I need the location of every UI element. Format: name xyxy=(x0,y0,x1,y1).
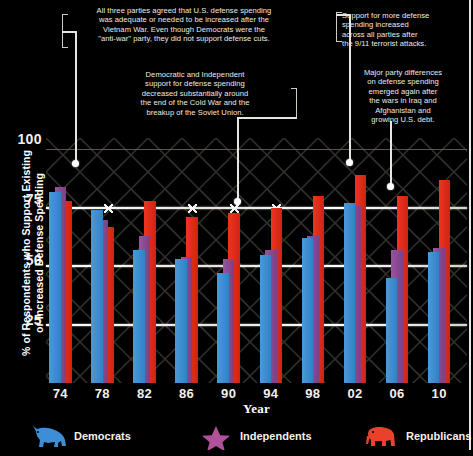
annotation-2002-line1: Support for more defense xyxy=(342,11,470,20)
bar-democrats-74 xyxy=(49,192,61,383)
annotation-2002: Support for more defense spending increa… xyxy=(342,11,470,49)
x-tick-06: 06 xyxy=(377,386,417,401)
x-tick-10: 10 xyxy=(419,386,459,401)
bar-democrats-90 xyxy=(217,273,229,383)
x-axis-title: Year xyxy=(46,401,467,417)
bar-group-82 xyxy=(133,138,156,383)
bar-group-10 xyxy=(428,138,451,383)
donkey-icon xyxy=(30,424,70,450)
annotation-2002-bracket xyxy=(336,12,342,42)
annotation-1974-line1: All three parties agreed that U.S. defen… xyxy=(68,6,300,15)
legend-label-democrats: Democrats xyxy=(74,430,131,442)
annotation-2006-line2: on defense spending xyxy=(336,77,470,86)
annotation-1974: All three parties agreed that U.S. defen… xyxy=(68,6,300,44)
annotation-1990-line5: breakup of the Soviet Union. xyxy=(100,108,290,117)
annotation-1990-line3: decreased substantially around xyxy=(100,89,290,98)
annotation-2006-leader-vertical xyxy=(390,121,392,186)
x-tick-90: 90 xyxy=(209,386,249,401)
y-axis-title-line2: or Increased Defense Spending xyxy=(33,173,45,333)
annotation-1990-line1: Democratic and Independent xyxy=(100,70,290,79)
bar-democrats-02 xyxy=(344,203,356,383)
annotation-2006-line6: growing U.S. debt. xyxy=(336,115,470,124)
x-tick-82: 82 xyxy=(124,386,164,401)
bar-group-02 xyxy=(344,138,367,383)
annotation-2002-line3: across all parties after xyxy=(342,30,470,39)
legend-label-republicans: Republicans xyxy=(406,430,471,442)
bar-group-94 xyxy=(260,138,283,383)
chart-plot-area xyxy=(46,138,467,383)
annotation-2006: Major party differences on defense spend… xyxy=(336,68,470,124)
annotation-2006-line3: emerged again after xyxy=(336,87,470,96)
annotation-1990-line2: support for defense spending xyxy=(100,79,290,88)
y-axis-title: % of Respondents who Support Existing or… xyxy=(20,123,46,383)
x-tick-86: 86 xyxy=(167,386,207,401)
annotation-2002-line4: the 9/11 terrorist attacks. xyxy=(342,39,470,48)
annotation-1990-leader-vertical xyxy=(237,117,239,202)
poster-bottom-edge xyxy=(0,450,473,456)
annotation-2002-leader-horizontal xyxy=(336,14,350,16)
annotation-1990-bracket xyxy=(291,88,297,118)
x-tick-98: 98 xyxy=(293,386,333,401)
bar-group-86 xyxy=(175,138,198,383)
annotation-1974-line3: Vietnam War. Even though Democrats were … xyxy=(68,25,300,34)
annotation-2006-line1: Major party differences xyxy=(336,68,470,77)
annotation-1974-line2: was adequate or needed to be increased a… xyxy=(68,15,300,24)
bar-democrats-78 xyxy=(91,210,103,383)
bar-democrats-98 xyxy=(302,238,314,383)
annotation-1974-leader-vertical xyxy=(75,31,77,163)
bar-group-74 xyxy=(49,138,72,383)
annotation-1974-leader-horizontal xyxy=(62,31,76,33)
legend-label-independents: Independents xyxy=(240,430,312,442)
poster-right-border xyxy=(469,0,471,456)
bar-democrats-10 xyxy=(428,252,440,383)
annotation-1990-leader-horizontal xyxy=(237,117,297,119)
x-tick-74: 74 xyxy=(40,386,80,401)
annotation-1990: Democratic and Independent support for d… xyxy=(100,70,290,117)
annotation-1990-line4: the end of the Cold War and the xyxy=(100,98,290,107)
elephant-icon xyxy=(362,424,402,450)
star-icon xyxy=(196,424,236,450)
x-tick-78: 78 xyxy=(82,386,122,401)
y-axis-title-line1: % of Respondents who Support Existing xyxy=(20,150,32,356)
bar-group-78 xyxy=(91,138,114,383)
bar-democrats-82 xyxy=(133,250,145,383)
bar-democrats-86 xyxy=(175,259,187,383)
annotation-1974-line4: "anti-war" party, they did not support d… xyxy=(68,34,300,43)
bar-democrats-06 xyxy=(386,278,398,383)
x-tick-94: 94 xyxy=(251,386,291,401)
annotation-2002-line2: spending increased xyxy=(342,20,470,29)
bar-group-98 xyxy=(302,138,325,383)
x-tick-02: 02 xyxy=(335,386,375,401)
annotation-2006-line5: Afghanistan and xyxy=(336,106,470,115)
annotation-2006-line4: the wars in Iraq and xyxy=(336,96,470,105)
bar-democrats-94 xyxy=(260,255,272,383)
